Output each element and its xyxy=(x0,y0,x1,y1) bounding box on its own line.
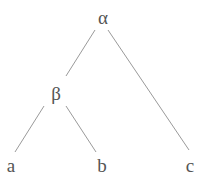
node-b: b xyxy=(97,156,107,175)
edge-alpha-c xyxy=(108,30,189,150)
node-c: c xyxy=(186,156,194,175)
node-a: a xyxy=(7,156,15,175)
edge-beta-a xyxy=(15,106,44,152)
edge-alpha-beta xyxy=(66,30,95,76)
node-alpha: α xyxy=(98,8,108,27)
edge-beta-b xyxy=(66,106,96,152)
node-beta: β xyxy=(51,84,61,103)
